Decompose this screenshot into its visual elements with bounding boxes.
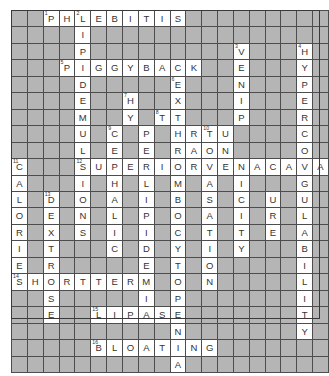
crossword-cell-filled[interactable]: T xyxy=(170,257,186,273)
crossword-cell-filled[interactable]: C xyxy=(170,224,186,240)
crossword-cell-filled[interactable]: R xyxy=(123,274,139,290)
crossword-cell-filled[interactable]: T xyxy=(233,224,249,240)
crossword-cell-filled[interactable]: Y xyxy=(297,60,313,76)
crossword-cell-filled[interactable]: I xyxy=(154,159,170,175)
crossword-cell-filled[interactable]: T xyxy=(43,241,59,257)
crossword-cell-filled[interactable]: A xyxy=(107,191,123,207)
crossword-cell-filled[interactable]: 12S xyxy=(75,159,91,175)
crossword-cell-filled[interactable]: T xyxy=(138,11,154,27)
crossword-cell-filled[interactable]: N xyxy=(170,323,186,339)
crossword-cell-filled[interactable]: E xyxy=(297,93,313,109)
crossword-cell-filled[interactable]: O xyxy=(170,274,186,290)
crossword-cell-filled[interactable]: G xyxy=(91,60,107,76)
crossword-cell-filled[interactable]: 16B xyxy=(91,340,107,356)
crossword-cell-filled[interactable]: E xyxy=(12,257,28,273)
crossword-cell-filled[interactable]: R xyxy=(297,109,313,125)
crossword-cell-filled[interactable]: C xyxy=(170,60,186,76)
crossword-cell-filled[interactable]: G xyxy=(202,340,218,356)
crossword-cell-filled[interactable]: H xyxy=(170,126,186,142)
crossword-cell-filled[interactable]: O xyxy=(43,274,59,290)
crossword-cell-filled[interactable]: I xyxy=(297,290,313,306)
crossword-cell-filled[interactable]: O xyxy=(75,191,91,207)
crossword-cell-filled[interactable]: R xyxy=(12,224,28,240)
crossword-cell-filled[interactable]: E xyxy=(233,60,249,76)
crossword-cell-filled[interactable]: O xyxy=(170,159,186,175)
crossword-cell-filled[interactable]: 3V xyxy=(233,43,249,59)
crossword-cell-filled[interactable]: A xyxy=(313,159,329,175)
crossword-cell-filled[interactable]: I xyxy=(138,290,154,306)
crossword-cell-filled[interactable]: B xyxy=(107,11,123,27)
crossword-cell-filled[interactable]: 7H xyxy=(123,93,139,109)
crossword-cell-filled[interactable]: I xyxy=(107,224,123,240)
crossword-cell-filled[interactable]: 6E xyxy=(170,76,186,92)
crossword-cell-filled[interactable]: A xyxy=(170,356,186,372)
crossword-cell-filled[interactable]: N xyxy=(75,208,91,224)
crossword-cell-filled[interactable]: O xyxy=(297,142,313,158)
crossword-cell-filled[interactable]: L xyxy=(107,208,123,224)
crossword-cell-filled[interactable]: A xyxy=(281,159,297,175)
crossword-cell-filled[interactable]: U xyxy=(218,126,234,142)
crossword-cell-filled[interactable]: I xyxy=(75,175,91,191)
crossword-cell-filled[interactable]: Y xyxy=(297,323,313,339)
crossword-cell-filled[interactable]: C xyxy=(265,159,281,175)
crossword-grid-body[interactable]: 1PH2LEBITISIP3V4H5PIGGYBACKEYD6ENPE7HXIE… xyxy=(12,11,329,373)
crossword-cell-filled[interactable]: M xyxy=(138,274,154,290)
crossword-cell-filled[interactable]: N xyxy=(233,159,249,175)
crossword-cell-filled[interactable]: L xyxy=(75,142,91,158)
crossword-cell-filled[interactable]: B xyxy=(297,241,313,257)
crossword-cell-filled[interactable]: K xyxy=(186,60,202,76)
crossword-cell-filled[interactable]: T xyxy=(75,274,91,290)
crossword-cell-filled[interactable]: E xyxy=(265,224,281,240)
crossword-cell-filled[interactable]: U xyxy=(75,126,91,142)
crossword-cell-filled[interactable]: A xyxy=(202,175,218,191)
crossword-cell-filled[interactable]: 4H xyxy=(297,43,313,59)
crossword-cell-filled[interactable]: 5P xyxy=(59,60,75,76)
crossword-table[interactable]: 1PH2LEBITISIP3V4H5PIGGYBACKEYD6ENPE7HXIE… xyxy=(11,10,329,373)
crossword-cell-filled[interactable]: P xyxy=(75,43,91,59)
crossword-cell-filled[interactable]: S xyxy=(75,224,91,240)
crossword-cell-filled[interactable]: P xyxy=(170,290,186,306)
crossword-cell-filled[interactable]: C xyxy=(107,241,123,257)
crossword-cell-filled[interactable]: I xyxy=(233,93,249,109)
crossword-cell-filled[interactable]: I xyxy=(170,340,186,356)
crossword-cell-filled[interactable]: M xyxy=(75,109,91,125)
crossword-cell-filled[interactable]: T xyxy=(297,307,313,323)
crossword-cell-filled[interactable]: A xyxy=(249,159,265,175)
crossword-cell-filled[interactable]: I xyxy=(297,257,313,273)
crossword-cell-filled[interactable]: D xyxy=(75,76,91,92)
crossword-cell-filled[interactable]: E xyxy=(91,11,107,27)
crossword-cell-filled[interactable]: P xyxy=(138,208,154,224)
crossword-cell-filled[interactable]: C xyxy=(297,126,313,142)
crossword-cell-filled[interactable]: A xyxy=(186,142,202,158)
crossword-cell-filled[interactable]: I xyxy=(138,224,154,240)
crossword-cell-filled[interactable]: L xyxy=(12,191,28,207)
crossword-cell-filled[interactable]: E xyxy=(218,159,234,175)
crossword-cell-filled[interactable]: E xyxy=(138,142,154,158)
crossword-cell-filled[interactable]: Y xyxy=(233,241,249,257)
crossword-cell-filled[interactable]: A xyxy=(138,340,154,356)
crossword-cell-filled[interactable]: I xyxy=(75,60,91,76)
crossword-cell-filled[interactable]: R xyxy=(170,142,186,158)
crossword-cell-filled[interactable]: S xyxy=(170,11,186,27)
crossword-cell-filled[interactable]: P xyxy=(107,159,123,175)
crossword-cell-filled[interactable]: E xyxy=(43,307,59,323)
crossword-cell-filled[interactable]: 9C xyxy=(107,126,123,142)
crossword-cell-filled[interactable]: P xyxy=(138,126,154,142)
crossword-cell-filled[interactable]: 15L xyxy=(91,307,107,323)
crossword-cell-filled[interactable]: R xyxy=(138,159,154,175)
crossword-cell-filled[interactable]: E xyxy=(138,257,154,273)
crossword-cell-filled[interactable]: 11C xyxy=(12,159,28,175)
crossword-cell-filled[interactable]: R xyxy=(265,208,281,224)
crossword-cell-filled[interactable]: I xyxy=(138,191,154,207)
crossword-cell-filled[interactable]: V xyxy=(202,159,218,175)
crossword-cell-filled[interactable]: L xyxy=(138,175,154,191)
crossword-cell-filled[interactable]: O xyxy=(170,208,186,224)
crossword-cell-filled[interactable]: T xyxy=(170,109,186,125)
crossword-cell-filled[interactable]: 1P xyxy=(43,11,59,27)
crossword-cell-filled[interactable]: B xyxy=(170,191,186,207)
crossword-cell-filled[interactable]: L xyxy=(297,274,313,290)
crossword-cell-filled[interactable]: P xyxy=(233,109,249,125)
crossword-cell-filled[interactable]: O xyxy=(202,142,218,158)
crossword-cell-filled[interactable]: C xyxy=(233,191,249,207)
crossword-cell-filled[interactable]: S xyxy=(43,290,59,306)
